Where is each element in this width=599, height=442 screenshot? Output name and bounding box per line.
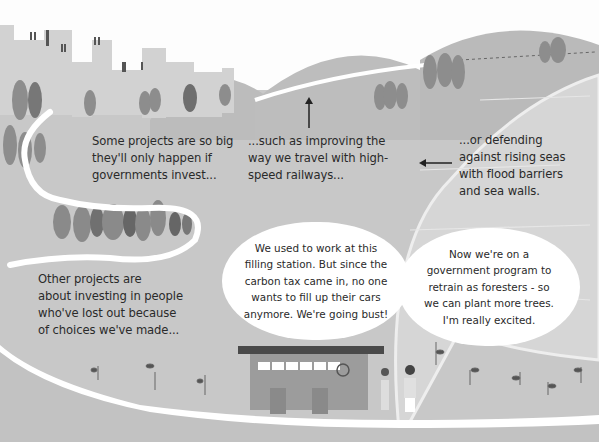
speech-text: We used to work at this filling station.… xyxy=(244,240,388,323)
caption-line: way we travel with high- xyxy=(248,150,388,167)
caption-line: Other projects are xyxy=(38,271,183,288)
caption-line: with flood barriers xyxy=(459,166,565,183)
caption-line: governments invest... xyxy=(92,167,233,184)
caption-line: and sea walls. xyxy=(459,183,565,200)
caption-line: they'll only happen if xyxy=(92,150,233,167)
caption-railways: ...such as improving the way we travel w… xyxy=(248,133,388,184)
caption-line: ...such as improving the xyxy=(248,133,388,150)
caption-people: Other projects are about investing in pe… xyxy=(38,271,183,339)
caption-line: about investing in people xyxy=(38,288,183,305)
caption-sea-defences: ...or defending against rising seas with… xyxy=(459,132,565,200)
speech-bubble-right: Now we're on a government program to ret… xyxy=(398,228,580,346)
caption-line: ...or defending xyxy=(459,132,565,149)
speech-bubble-left: We used to work at this filling station.… xyxy=(222,222,410,340)
filling-station xyxy=(238,346,384,414)
caption-line: speed railways... xyxy=(248,167,388,184)
caption-line: of choices we've made... xyxy=(38,322,183,339)
caption-line: Some projects are so big xyxy=(92,133,233,150)
caption-big-projects: Some projects are so big they'll only ha… xyxy=(92,133,233,184)
illustration-scene: Some projects are so big they'll only ha… xyxy=(0,0,599,442)
landscape-illustration xyxy=(0,0,599,442)
caption-line: against rising seas xyxy=(459,149,565,166)
speech-text: Now we're on a government program to ret… xyxy=(424,246,554,329)
caption-line: who've lost out because xyxy=(38,305,183,322)
